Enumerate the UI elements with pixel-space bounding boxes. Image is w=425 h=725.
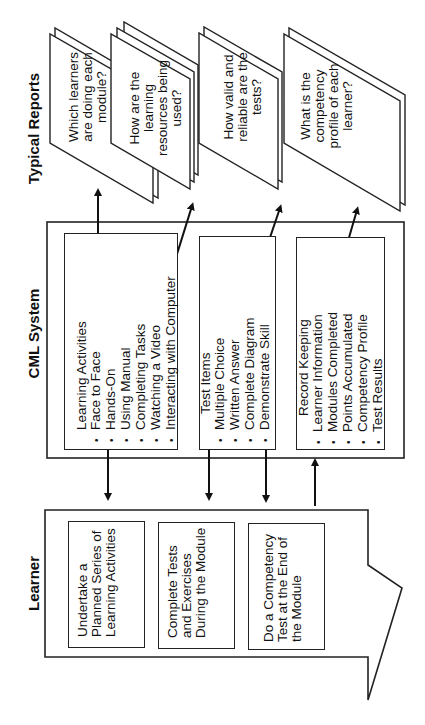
title-learner: Learner bbox=[25, 549, 42, 619]
cml-test-items-text: Test Items Multiple Choice Written Answe… bbox=[199, 242, 273, 442]
cml-record-keeping-text: Record Keeping Learner Information Modul… bbox=[297, 244, 383, 444]
learner-step-3-text: Do a Competency Test at the End of the M… bbox=[262, 524, 318, 642]
report-2: How are the learning resources being use… bbox=[128, 53, 184, 163]
report-4: What is the competency profile of each l… bbox=[299, 51, 355, 161]
cml-heading: Learning Activities bbox=[75, 242, 89, 442]
learner-step-1-text: Undertake a Planned Series of Learning A… bbox=[76, 525, 138, 637]
learner-step-2-text: Complete Tests and Exercises During the … bbox=[166, 526, 228, 638]
title-typical-reports: Typical Reports bbox=[25, 69, 42, 189]
report-1: Which learners are doing each module? bbox=[67, 42, 109, 152]
cml-learning-activities-text: Learning Activities Face to Face Hands-O… bbox=[75, 242, 185, 442]
report-3: How valid and reliable are the tests? bbox=[222, 42, 264, 152]
title-cml-system: CML System bbox=[25, 284, 42, 384]
